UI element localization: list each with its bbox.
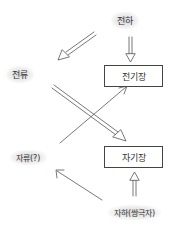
node-magnetic-field: 자기장 — [104, 146, 163, 168]
arrows-layer — [0, 0, 173, 233]
arrow-magnetic-charge-to-magnetic-field — [130, 172, 139, 196]
node-current: 전류 — [6, 66, 34, 83]
node-electric-field: 전기장 — [104, 65, 163, 87]
node-charge: 전하 — [111, 12, 139, 29]
arrow-charge-to-current — [58, 32, 96, 60]
arrow-magnetic-charge-to-magnetic-current — [56, 170, 102, 200]
diagram-canvas: 전하 전류 전기장 자기장 자류(?) 자하(쌍극자) — [0, 0, 173, 233]
node-magnetic-current: 자류(?) — [10, 150, 47, 165]
node-magnetic-charge: 자하(쌍극자) — [108, 205, 161, 220]
arrow-charge-to-electric-field — [126, 37, 135, 62]
arrow-current-to-magnetic-field — [52, 85, 126, 141]
